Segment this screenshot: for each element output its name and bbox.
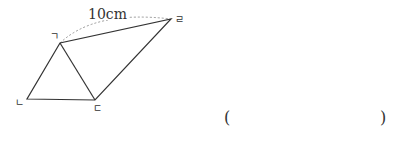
vertex-label-d: ㄹ (175, 14, 184, 25)
vertex-label-c: ㄷ (93, 103, 102, 114)
diagonal-ac (60, 43, 95, 100)
vertex-label-a: ㄱ (50, 31, 59, 42)
vertex-label-b: ㄴ (15, 97, 24, 108)
answer-close-paren: ) (380, 108, 386, 127)
quadrilateral-outline (27, 19, 171, 100)
answer-open-paren: ( (224, 108, 230, 127)
measure-label: 10cm (88, 6, 127, 22)
quadrilateral-diagram: 10cm ㄱ ㄴ ㄷ ㄹ (0, 0, 396, 142)
